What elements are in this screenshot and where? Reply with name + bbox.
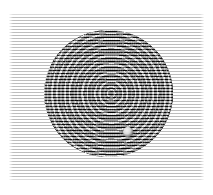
scanned-plate: [9, 13, 204, 181]
figure-root: [0, 0, 213, 195]
disc-edge-vignette: [44, 30, 173, 157]
bright-blob-artifact: [123, 127, 133, 137]
interference-disc: [44, 30, 173, 157]
